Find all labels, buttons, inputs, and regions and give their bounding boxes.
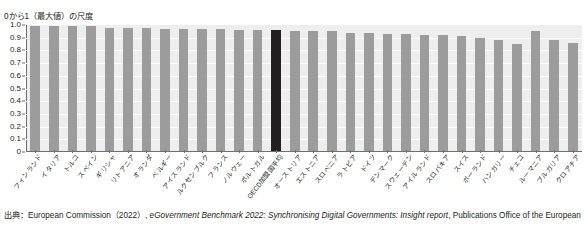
y-tick-label: 0.1 [10,135,21,143]
x-tick-mark [54,150,55,153]
x-tick-mark [369,150,370,153]
y-tick-mark [22,152,25,153]
x-tick-mark [109,150,110,153]
bar [290,31,300,151]
y-tick-label: 0.3 [10,110,21,118]
bar [549,40,559,151]
x-tick-mark [536,150,537,153]
bar [49,26,59,151]
bar [346,33,356,151]
bar [160,29,170,151]
bar [30,26,40,151]
x-tick-label: フィンランド [12,153,43,190]
bar [216,29,226,151]
x-tick-mark [72,150,73,153]
x-tick-mark [480,150,481,153]
plot-area [26,25,582,152]
y-tick-mark [22,63,25,64]
bar [86,26,96,151]
x-axis-labels: フィンランドイタリアトルコスペインギリシャリトアニアオランダベルギーアイスランド… [26,153,582,205]
y-tick-label: 0.4 [10,97,21,105]
y-tick-label: 0.5 [10,85,21,93]
y-tick-label: 0.6 [10,72,21,80]
x-tick-mark [202,150,203,153]
x-tick-mark [332,150,333,153]
y-tick-label: 0.8 [10,46,21,54]
bar [123,28,133,151]
source-prefix: 出典： [4,211,28,220]
y-tick-mark [22,113,25,114]
x-tick-mark [554,150,555,153]
source-org: European Commission（2022）, [28,211,147,220]
bar [271,30,281,151]
y-tick-mark [22,50,25,51]
x-tick-mark [573,150,574,153]
x-tick-mark [146,150,147,153]
bar [383,34,393,151]
bar [253,30,263,151]
source-suffix: , Publications Office of the European [448,211,581,220]
bar [234,30,244,151]
y-tick-label: 0.2 [10,123,21,131]
bar [494,40,504,151]
x-tick-mark [406,150,407,153]
y-axis: 1.00.90.80.70.60.50.40.30.20.10 [0,25,24,152]
x-tick-mark [499,150,500,153]
x-tick-mark [128,150,129,153]
y-tick-mark [22,88,25,89]
y-tick-mark [22,126,25,127]
x-tick-mark [221,150,222,153]
x-tick-mark [424,150,425,153]
x-tick-mark [239,150,240,153]
bar [68,26,78,151]
x-tick-mark [35,150,36,153]
x-tick-mark [517,150,518,153]
x-tick-label: チェコ [507,153,525,174]
y-tick-mark [22,139,25,140]
bar [401,34,411,151]
x-tick-mark [91,150,92,153]
y-tick-label: 0 [17,148,21,156]
source-note: 出典：European Commission（2022）, eGovernmen… [4,211,581,221]
y-tick-mark [22,25,25,26]
bar [327,31,337,151]
source-title: eGovernment Benchmark 2022: Synchronisin… [150,211,449,220]
y-tick-label: 0.7 [10,59,21,67]
x-tick-mark [258,150,259,153]
bar [308,31,318,151]
x-tick-mark [387,150,388,153]
bar [364,33,374,151]
x-tick-mark [295,150,296,153]
x-tick-mark [276,150,277,153]
x-tick-mark [443,150,444,153]
x-tick-label: トルコ [62,153,80,174]
bar [105,28,115,151]
bar [438,35,448,151]
chart-figure: 0から1（最大値）の尺度 1.00.90.80.70.60.50.40.30.2… [0,0,587,226]
x-tick-label: スイス [452,153,470,174]
x-tick-mark [350,150,351,153]
y-tick-mark [22,75,25,76]
bar [179,29,189,151]
y-tick-mark [22,101,25,102]
bar [197,29,207,151]
x-tick-mark [165,150,166,153]
bar [420,35,430,151]
x-tick-mark [313,150,314,153]
bar [568,43,578,151]
x-tick-mark [184,150,185,153]
bar [457,36,467,151]
bar [531,31,541,151]
y-tick-mark [22,37,25,38]
bar [142,28,152,151]
bar [512,44,522,151]
bar [475,38,485,151]
y-tick-label: 1.0 [10,21,21,29]
y-tick-label: 0.9 [10,34,21,42]
x-tick-mark [462,150,463,153]
